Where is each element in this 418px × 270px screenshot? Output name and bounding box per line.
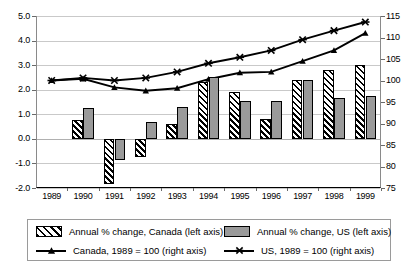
bar-us_bar-1996 — [271, 101, 282, 139]
left-axis-tick-mark — [32, 114, 36, 115]
legend-entry-canada-line: Canada, 1989 = 100 (right axis) — [36, 241, 206, 259]
legend-entry-us-bar: Annual % change, US (left axis) — [224, 222, 391, 240]
right-axis-tick-mark — [381, 81, 385, 82]
x-axis-tick-mark — [381, 188, 382, 191]
bar-us_bar-1992 — [146, 122, 157, 139]
legend-entry-us-line: US, 1989 = 100 (right axis) — [224, 241, 374, 259]
right-axis-tick-mark — [381, 102, 385, 103]
left-axis-tick-mark — [32, 139, 36, 140]
left-axis-tick-label: 2.0 — [0, 85, 30, 94]
right-axis-tick-label: 80 — [386, 162, 416, 171]
x-axis-tick-mark — [67, 188, 68, 191]
left-axis-tick-label: 0.0 — [0, 134, 30, 143]
right-axis-tick-mark — [381, 167, 385, 168]
right-axis-tick-mark — [381, 16, 385, 17]
bar-ca_bar-1993 — [166, 124, 177, 139]
bar-us_bar-1993 — [177, 107, 188, 139]
x-axis-tick-mark — [256, 188, 257, 191]
gridline — [37, 65, 380, 66]
faint-title — [70, 0, 360, 8]
right-axis-tick-label: 90 — [386, 119, 416, 128]
x-axis-tick-label: 1999 — [345, 192, 385, 201]
x-axis-tick-mark — [130, 188, 131, 191]
gridline — [37, 41, 380, 42]
right-axis-tick-mark — [381, 145, 385, 146]
bar-us_bar-1991 — [115, 139, 126, 160]
right-axis-tick-mark — [381, 38, 385, 39]
left-axis-tick-label: -1.0 — [0, 159, 30, 168]
gridline — [37, 139, 380, 140]
bar-ca_bar-1992 — [135, 139, 146, 157]
bar-us_bar-1995 — [240, 101, 251, 139]
right-axis-tick-label: 105 — [386, 55, 416, 64]
x-axis-tick-mark — [318, 188, 319, 191]
left-axis-tick-mark — [32, 90, 36, 91]
gridline — [37, 163, 380, 164]
left-axis-tick-label: 4.0 — [0, 36, 30, 45]
bar-ca_bar-1994 — [198, 82, 209, 139]
bar-ca_bar-1999 — [355, 65, 366, 139]
gray-bar-swatch-icon — [224, 226, 250, 237]
bar-us_bar-1997 — [303, 80, 314, 139]
bar-ca_bar-1996 — [260, 119, 271, 139]
left-axis-tick-label: 1.0 — [0, 110, 30, 119]
right-axis-tick-label: 85 — [386, 141, 416, 150]
left-axis-tick-label: -2.0 — [0, 184, 30, 193]
left-axis-tick-label: 5.0 — [0, 12, 30, 21]
x-axis-tick-mark — [99, 188, 100, 191]
bar-ca_bar-1991 — [104, 139, 115, 184]
bar-ca_bar-1990 — [72, 120, 83, 138]
left-axis-tick-mark — [32, 188, 36, 189]
left-axis-tick-mark — [32, 65, 36, 66]
legend-entry-canada-bar: Annual % change, Canada (left axis) — [36, 222, 223, 240]
x-axis-tick-mark — [287, 188, 288, 191]
legend-label-us-line: US, 1989 = 100 (right axis) — [261, 245, 374, 256]
right-axis-tick-label: 100 — [386, 76, 416, 85]
bar-us_bar-1999 — [366, 96, 377, 139]
legend-label-us-bar: Annual % change, US (left axis) — [257, 226, 391, 237]
chart-figure: 5.04.03.02.01.00.0-1.0-2.0 1151101051009… — [0, 0, 418, 270]
bar-ca_bar-1995 — [229, 92, 240, 139]
gridline — [37, 188, 380, 189]
right-axis-tick-mark — [381, 124, 385, 125]
legend-label-canada-bar: Annual % change, Canada (left axis) — [69, 226, 223, 237]
x-axis-tick-mark — [350, 188, 351, 191]
bar-ca_bar-1997 — [292, 80, 303, 139]
right-axis-tick-label: 95 — [386, 98, 416, 107]
triangle-line-swatch-icon — [36, 245, 66, 256]
left-axis-tick-label: 3.0 — [0, 61, 30, 70]
chart-legend: Annual % change, Canada (left axis) Annu… — [27, 219, 391, 261]
right-axis-tick-label: 110 — [386, 33, 416, 42]
right-axis-tick-mark — [381, 59, 385, 60]
bar-us_bar-1998 — [334, 98, 345, 139]
left-axis-tick-mark — [32, 163, 36, 164]
legend-label-canada-line: Canada, 1989 = 100 (right axis) — [73, 245, 206, 256]
left-axis-tick-mark — [32, 16, 36, 17]
right-axis-tick-label: 75 — [386, 184, 416, 193]
hatched-bar-swatch-icon — [36, 226, 62, 237]
x-axis-tick-mark — [193, 188, 194, 191]
bar-ca_bar-1998 — [323, 70, 334, 139]
gridline — [37, 16, 380, 17]
right-axis-tick-label: 115 — [386, 12, 416, 21]
bar-us_bar-1994 — [209, 77, 220, 138]
left-axis-tick-mark — [32, 41, 36, 42]
star-line-swatch-icon — [224, 245, 254, 256]
x-axis-tick-mark — [161, 188, 162, 191]
bar-us_bar-1990 — [83, 108, 94, 139]
x-axis-tick-mark — [224, 188, 225, 191]
